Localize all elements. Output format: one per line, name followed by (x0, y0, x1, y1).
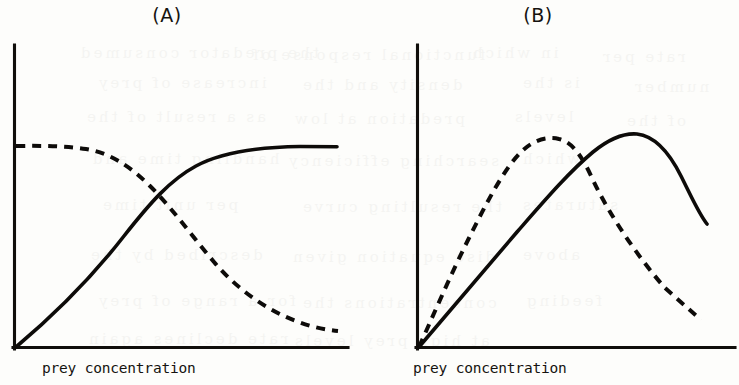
panel-b-x-axis-label: prey concentration (413, 360, 567, 376)
panel-b-dashed-curve (419, 138, 701, 347)
panel-b: (B) prey concentration (369, 0, 739, 385)
panel-b-plot (369, 0, 739, 385)
panel-b-solid-curve (419, 134, 707, 347)
panel-a-plot (0, 0, 370, 385)
panel-a-x-axis-label: prey concentration (42, 360, 196, 376)
panel-a: (A) prey concentration (0, 0, 370, 385)
figure-container: the predator consumedfunctional response… (0, 0, 739, 385)
